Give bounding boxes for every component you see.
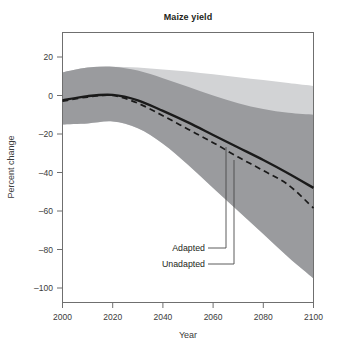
annotation-label-unadapted: Unadapted <box>162 259 205 269</box>
x-tick-label: 2060 <box>204 312 223 322</box>
y-axis-ticks: 200–20–40–60–80–100 <box>34 52 62 293</box>
maize-yield-chart-figure: Maize yield 200–20–40–60–80–100 20002020… <box>0 0 338 351</box>
y-tick-label: –20 <box>39 129 53 139</box>
x-tick-label: 2040 <box>153 312 172 322</box>
y-axis-title: Percent change <box>6 135 16 198</box>
x-tick-label: 2080 <box>254 312 273 322</box>
y-tick-label: –40 <box>39 168 53 178</box>
x-tick-label: 2100 <box>304 312 323 322</box>
y-tick-label: 0 <box>48 91 53 101</box>
x-axis-title: Year <box>179 330 197 340</box>
x-axis-ticks: 200020202040206020802100 <box>53 303 323 323</box>
x-tick-label: 2020 <box>103 312 122 322</box>
x-tick-label: 2000 <box>53 312 72 322</box>
annotation-label-adapted: Adapted <box>172 243 205 253</box>
y-tick-label: –60 <box>39 206 53 216</box>
y-tick-label: 20 <box>44 52 54 62</box>
y-tick-label: –100 <box>34 283 53 293</box>
y-tick-label: –80 <box>39 245 53 255</box>
chart-plot-area: 200–20–40–60–80–100 20002020204020602080… <box>0 0 338 351</box>
